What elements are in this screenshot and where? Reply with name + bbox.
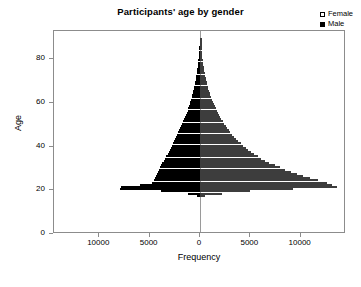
bar-female-age-26 <box>200 175 303 177</box>
bar-female-age-63 <box>200 94 210 96</box>
y-tick-label-1: 20 <box>11 184 45 193</box>
bar-female-age-24 <box>200 179 318 181</box>
x-axis-label: Frequency <box>53 252 345 262</box>
bar-female-age-84 <box>200 48 202 50</box>
bar-female-age-32 <box>200 162 269 164</box>
bar-female-age-75 <box>200 68 204 70</box>
male-swatch-icon <box>320 22 325 27</box>
bar-female-age-78 <box>200 62 203 64</box>
bar-female-age-50 <box>200 123 224 125</box>
bar-female-age-62 <box>200 96 211 98</box>
bar-female-age-33 <box>200 160 265 162</box>
x-tick-label-4: 10000 <box>275 238 325 247</box>
bar-female-age-49 <box>200 125 226 127</box>
y-tick-label-3: 60 <box>11 97 45 106</box>
legend-label-female: Female <box>328 9 353 19</box>
legend-item-male: Male <box>320 19 353 29</box>
bar-female-age-29 <box>200 169 285 171</box>
bar-female-age-79 <box>200 59 203 61</box>
bar-female-age-46 <box>200 131 230 133</box>
bar-female-age-42 <box>200 140 238 142</box>
bar-female-age-34 <box>200 158 261 160</box>
bar-female-age-77 <box>200 64 203 66</box>
bar-female-age-57 <box>200 107 216 109</box>
bar-female-age-47 <box>200 129 229 131</box>
female-swatch-icon <box>320 12 325 17</box>
bar-female-age-22 <box>200 184 332 186</box>
bar-female-age-82 <box>200 53 202 55</box>
x-tick-label-1: 5000 <box>124 238 174 247</box>
bar-female-age-86 <box>200 44 202 46</box>
bar-female-age-21 <box>200 186 337 188</box>
bar-female-age-87 <box>200 42 202 44</box>
y-tick-0 <box>49 233 53 234</box>
bar-female-age-85 <box>200 46 202 48</box>
bar-female-age-81 <box>200 55 202 57</box>
bar-female-age-44 <box>200 136 234 138</box>
bar-female-age-27 <box>200 173 297 175</box>
bar-female-age-48 <box>200 127 227 129</box>
bar-female-age-65 <box>200 90 209 92</box>
x-tick-label-0: 10000 <box>73 238 123 247</box>
y-tick-label-4: 80 <box>11 53 45 62</box>
bar-female-age-59 <box>200 103 214 105</box>
bar-female-age-23 <box>200 182 327 184</box>
legend-item-female: Female <box>320 9 353 19</box>
bar-female-age-30 <box>200 166 280 168</box>
bar-female-age-31 <box>200 164 275 166</box>
bar-female-age-52 <box>200 118 221 120</box>
bar-female-age-72 <box>200 75 205 77</box>
bar-female-age-53 <box>200 116 220 118</box>
population-pyramid-chart: Participants' age by gender Frequency Ag… <box>0 0 361 287</box>
bar-female-age-71 <box>200 77 206 79</box>
bar-female-age-80 <box>200 57 202 59</box>
bar-female-age-60 <box>200 101 213 103</box>
y-tick-1 <box>49 189 53 190</box>
bar-female-age-55 <box>200 112 218 114</box>
bar-female-age-51 <box>200 120 223 122</box>
y-tick-label-2: 40 <box>11 141 45 150</box>
bar-female-age-69 <box>200 81 207 83</box>
y-tick-label-0: 0 <box>11 228 45 237</box>
bar-female-age-38 <box>200 149 248 151</box>
bar-female-age-64 <box>200 92 210 94</box>
bar-female-age-76 <box>200 66 204 68</box>
bar-female-age-61 <box>200 99 212 101</box>
x-tick-4 <box>300 233 301 237</box>
bar-female-age-35 <box>200 155 258 157</box>
bar-female-age-41 <box>200 142 241 144</box>
bar-female-age-56 <box>200 110 217 112</box>
chart-legend: Female Male <box>320 9 353 29</box>
bar-female-age-73 <box>200 72 205 74</box>
x-tick-0 <box>98 233 99 237</box>
bar-female-age-43 <box>200 138 236 140</box>
bar-female-age-70 <box>200 79 206 81</box>
y-tick-2 <box>49 146 53 147</box>
bar-female-age-28 <box>200 171 291 173</box>
bar-female-age-74 <box>200 70 204 72</box>
x-tick-label-2: 0 <box>174 238 224 247</box>
bar-female-age-45 <box>200 134 232 136</box>
x-tick-3 <box>249 233 250 237</box>
bar-female-age-68 <box>200 83 207 85</box>
y-tick-4 <box>49 58 53 59</box>
legend-label-male: Male <box>328 19 344 29</box>
chart-title: Participants' age by gender <box>0 6 361 17</box>
x-tick-2 <box>199 233 200 237</box>
bar-female-age-18 <box>200 193 222 195</box>
bar-female-age-36 <box>200 153 254 155</box>
female-bars-group <box>54 31 344 232</box>
bar-female-age-17 <box>200 195 205 197</box>
x-tick-label-3: 5000 <box>224 238 274 247</box>
y-tick-3 <box>49 102 53 103</box>
bar-female-age-66 <box>200 88 208 90</box>
bar-female-age-67 <box>200 86 208 88</box>
x-tick-1 <box>149 233 150 237</box>
bar-female-age-39 <box>200 147 246 149</box>
bar-female-age-37 <box>200 151 251 153</box>
bar-female-age-83 <box>200 51 202 53</box>
bar-female-age-88 <box>200 40 202 42</box>
bar-female-age-54 <box>200 114 219 116</box>
bar-female-age-58 <box>200 105 215 107</box>
bar-female-age-89 <box>200 38 202 40</box>
